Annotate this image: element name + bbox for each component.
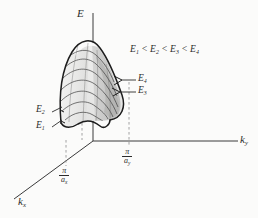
energy-label-E1: E1 (36, 121, 45, 131)
e-axis-label: E (77, 8, 84, 19)
energy-label-E3: E3 (138, 86, 147, 96)
ky-axis-label: ky (240, 134, 248, 145)
axis-lines (14, 13, 238, 199)
energy-label-E2: E2 (36, 105, 45, 115)
tick-denominator: ax (59, 175, 69, 184)
energy-label-E4: E4 (138, 74, 147, 84)
tick-denominator: ay (122, 156, 132, 165)
tick-label-pi-over-ay: π ay (122, 148, 132, 166)
tick-numerator: π (122, 148, 132, 156)
energy-band-figure: E ky kx E1 < E2 < E3 < E4 E4 E3 E2 E1 π … (0, 0, 258, 218)
kx-axis-label: kx (18, 196, 26, 207)
energy-ordering-legend: E1 < E2 < E3 < E4 (130, 45, 199, 55)
tick-label-pi-over-ax: π ax (59, 167, 69, 185)
kx-axis-line (14, 141, 93, 199)
tick-numerator: π (59, 167, 69, 175)
